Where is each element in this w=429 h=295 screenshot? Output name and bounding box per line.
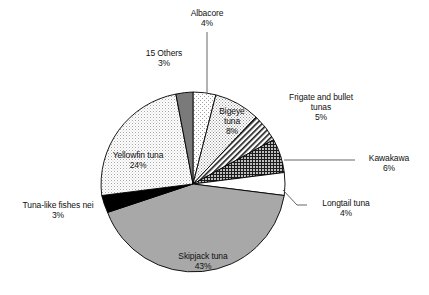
pie-label-albacore-name: Albacore (191, 8, 224, 18)
pie-label-bigeye-tuna-name-line1: Bigeye (219, 106, 244, 116)
leader-line-longtail-tuna (283, 190, 307, 205)
pie-label-tuna-like-fishes-nei: Tuna-like fishes nei 3% (6, 200, 110, 220)
pie-label-yellowfin-tuna: Yellowfin tuna 24% (97, 150, 179, 170)
pie-label-frigate-and-bullet-tunas: Frigate and bullet tunas 5% (266, 92, 376, 122)
pie-label-albacore-value: 4% (172, 18, 242, 28)
pie-label-skipjack-tuna-value: 43% (158, 261, 248, 271)
pie-chart: Albacore 4% 15 Others 3% Bigeye tuna 8% … (0, 0, 429, 295)
pie-label-yellowfin-tuna-value: 24% (97, 160, 179, 170)
pie-label-longtail-tuna: Longtail tuna 4% (306, 198, 386, 218)
pie-label-tuna-like-fishes-nei-value: 3% (6, 210, 110, 220)
pie-label-bigeye-tuna: Bigeye tuna 8% (202, 106, 262, 136)
pie-label-bigeye-tuna-value: 8% (202, 126, 262, 136)
pie-label-bigeye-tuna-name-line2: tuna (202, 116, 262, 126)
pie-label-longtail-tuna-value: 4% (306, 208, 386, 218)
pie-label-15-others: 15 Others 3% (128, 48, 200, 68)
pie-label-skipjack-tuna: Skipjack tuna 43% (158, 251, 248, 271)
pie-label-frigate-name-line1: Frigate and bullet (289, 92, 353, 102)
pie-label-longtail-tuna-name: Longtail tuna (322, 198, 369, 208)
pie-label-15-others-name: 15 Others (146, 48, 182, 58)
pie-label-kawakawa-value: 6% (356, 163, 422, 173)
pie-label-frigate-value: 5% (266, 112, 376, 122)
pie-label-15-others-value: 3% (128, 58, 200, 68)
pie-label-yellowfin-tuna-name: Yellowfin tuna (113, 150, 164, 160)
pie-label-skipjack-tuna-name: Skipjack tuna (178, 251, 227, 261)
pie-label-frigate-name-line2: tunas (266, 102, 376, 112)
pie-label-tuna-like-fishes-nei-name: Tuna-like fishes nei (23, 200, 94, 210)
pie-label-kawakawa-name: Kawakawa (369, 153, 409, 163)
pie-label-kawakawa: Kawakawa 6% (356, 153, 422, 173)
pie-label-albacore: Albacore 4% (172, 8, 242, 28)
